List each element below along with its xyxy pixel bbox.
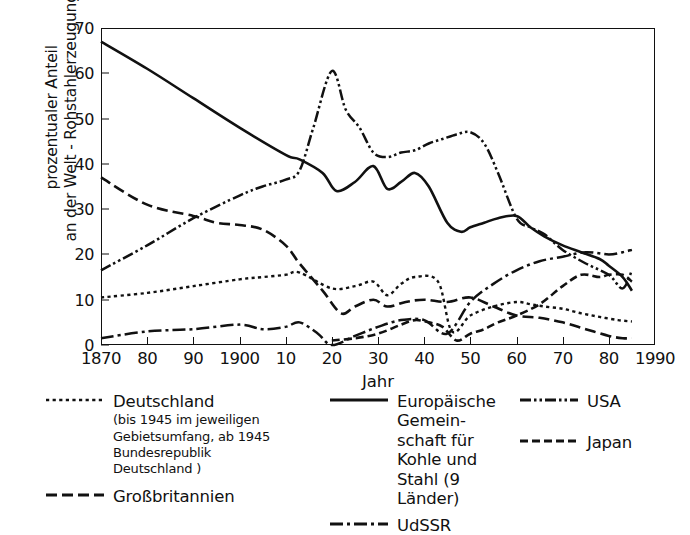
legend-egks-line-2: schaft für Kohle und	[397, 431, 477, 469]
series-line-deutschland	[101, 272, 632, 333]
series-lines	[101, 28, 655, 345]
legend-sub-line-4: Deutschland )	[113, 461, 336, 477]
legend-egks-line-1: Europäische Gemein-	[397, 392, 496, 430]
x-tick-label-90: 90	[183, 349, 203, 368]
legend-item-udssr: UdSSR	[330, 516, 515, 535]
legend-label-deutschland: Deutschland	[113, 392, 214, 411]
series-line-usa	[101, 71, 632, 289]
series-line-europische	[101, 42, 632, 291]
x-tick-label-10: 10	[276, 349, 296, 368]
legend-item-japan: Japan	[520, 433, 685, 452]
legend-label-egks: Europäische Gemein- schaft für Kohle und…	[397, 392, 515, 509]
x-tick-mark	[193, 337, 194, 345]
x-tick-mark	[424, 337, 425, 345]
legend-sub-line-3: Bundesrepublik	[113, 445, 336, 461]
legend-egks-line-3: Stahl (9 Länder)	[397, 470, 460, 508]
legend-sublabel-deutschland: (bis 1945 im jeweiligen Gebietsumfang, a…	[113, 412, 336, 477]
legend-swatch-dashed-medium-icon	[520, 436, 578, 452]
x-tick-label-20: 20	[322, 349, 342, 368]
x-tick-mark	[563, 337, 564, 345]
legend-swatch-dotted-icon	[46, 395, 104, 411]
x-tick-label-1870: 1870	[81, 349, 121, 368]
x-axis-tick-labels: 18708090190010203040506070801990	[101, 349, 655, 373]
plot-area	[101, 28, 655, 345]
y-tick-label-10: 10	[74, 290, 94, 309]
legend-swatch-solid-icon	[330, 395, 388, 411]
legend-label-udssr: UdSSR	[397, 516, 451, 535]
legend-swatch-dash-dot-icon	[330, 519, 388, 535]
x-tick-label-50: 50	[460, 349, 480, 368]
legend-column-3: USA Japan	[520, 392, 685, 459]
legend-item-grossbritannien: Großbritannien	[46, 487, 336, 506]
legend-sub-line-1: (bis 1945 im jeweiligen	[113, 412, 336, 428]
x-tick-mark	[517, 337, 518, 345]
x-tick-mark	[147, 337, 148, 345]
x-tick-label-80: 80	[599, 349, 619, 368]
legend-label-grossbritannien: Großbritannien	[113, 487, 234, 506]
legend-label-usa: USA	[587, 392, 621, 411]
x-tick-mark	[470, 337, 471, 345]
y-axis-tick-labels: 010203040506070	[60, 28, 94, 345]
x-tick-mark	[286, 337, 287, 345]
y-tick-label-50: 50	[74, 109, 94, 128]
x-tick-mark	[332, 337, 333, 345]
x-tick-mark	[240, 337, 241, 345]
y-tick-label-60: 60	[74, 64, 94, 83]
x-tick-label-70: 70	[553, 349, 573, 368]
legend-column-2: Europäische Gemein- schaft für Kohle und…	[330, 392, 515, 535]
x-tick-label-30: 30	[368, 349, 388, 368]
legend-item-egks: Europäische Gemein- schaft für Kohle und…	[330, 392, 515, 509]
y-tick-label-30: 30	[74, 200, 94, 219]
legend-item-deutschland: Deutschland (bis 1945 im jeweiligen Gebi…	[46, 392, 336, 477]
legend-sub-line-2: Gebietsumfang, ab 1945	[113, 429, 336, 445]
x-tick-label-1900: 1900	[220, 349, 260, 368]
legend-swatch-dash-dot-dot-icon	[520, 395, 578, 411]
y-tick-label-20: 20	[74, 245, 94, 264]
x-tick-label-80: 80	[137, 349, 157, 368]
chart-legend: Deutschland (bis 1945 im jeweiligen Gebi…	[0, 392, 690, 514]
x-tick-mark	[378, 337, 379, 345]
legend-column-1: Deutschland (bis 1945 im jeweiligen Gebi…	[46, 392, 336, 513]
y-tick-label-40: 40	[74, 154, 94, 173]
legend-swatch-dashed-long-icon	[46, 490, 104, 506]
x-axis-title: Jahr	[101, 372, 655, 391]
legend-item-usa: USA	[520, 392, 685, 411]
x-tick-label-60: 60	[507, 349, 527, 368]
x-tick-mark	[609, 337, 610, 345]
y-tick-label-70: 70	[74, 19, 94, 38]
series-line-udssr	[101, 250, 632, 345]
x-tick-label-1990: 1990	[635, 349, 675, 368]
x-tick-label-40: 40	[414, 349, 434, 368]
legend-label-japan: Japan	[587, 433, 632, 452]
